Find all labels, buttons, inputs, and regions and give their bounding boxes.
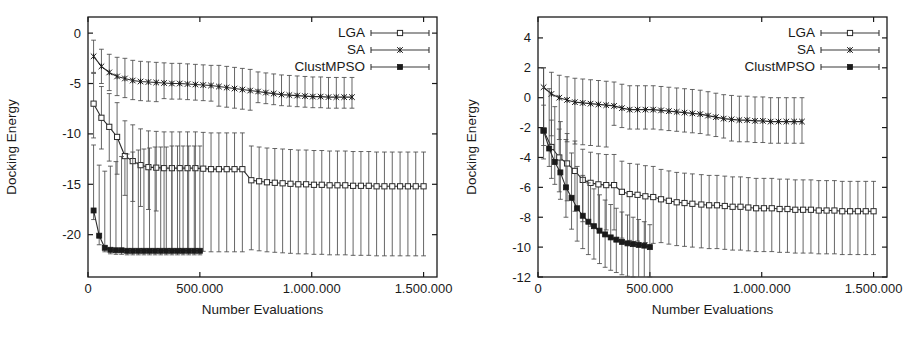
datapoint-lga-3: [114, 134, 119, 139]
datapoint-lga-41: [413, 184, 418, 189]
datapoint-lga-27: [753, 206, 758, 211]
datapoint-clustmpso-7: [130, 248, 135, 253]
x-tick-label-2: 1.000.000: [283, 281, 341, 296]
legend-label-sa: SA: [796, 42, 814, 57]
chart-svg-left: 0500.0001.000.0001.500.0000-5-10-15-20Nu…: [0, 0, 459, 343]
datapoint-lga-37: [382, 184, 387, 189]
datapoint-clustmpso-9: [591, 224, 596, 229]
datapoint-sa-1: [99, 64, 105, 70]
datapoint-lga-13: [642, 194, 647, 199]
datapoint-clustmpso-0: [91, 208, 96, 213]
datapoint-lga-0: [91, 101, 96, 106]
legend-label-lga: LGA: [787, 25, 814, 40]
datapoint-clustmpso-15: [175, 248, 180, 253]
datapoint-clustmpso-19: [197, 248, 202, 253]
datapoint-lga-30: [777, 206, 782, 211]
datapoint-lga-29: [769, 206, 774, 211]
datapoint-clustmpso-7: [580, 213, 585, 218]
datapoint-lga-17: [674, 200, 679, 205]
y-tick-label-4: -20: [62, 227, 81, 242]
datapoint-lga-3: [564, 161, 569, 166]
datapoint-lga-9: [611, 183, 616, 188]
datapoint-lga-20: [249, 178, 254, 183]
figure-container: 0500.0001.000.0001.500.0000-5-10-15-20Nu…: [0, 0, 919, 343]
datapoint-lga-8: [603, 183, 608, 188]
datapoint-lga-33: [351, 183, 356, 188]
datapoint-clustmpso-1: [97, 233, 102, 238]
datapoint-lga-37: [831, 208, 836, 213]
datapoint-sa-2: [106, 70, 112, 76]
markers-clustmpso: [91, 208, 202, 253]
chart-panel-left: 0500.0001.000.0001.500.0000-5-10-15-20Nu…: [0, 0, 460, 343]
y-tick-label-5: -6: [519, 180, 531, 195]
datapoint-clustmpso-16: [630, 242, 635, 247]
datapoint-lga-8: [154, 165, 159, 170]
y-tick-label-6: -8: [519, 210, 531, 225]
y-tick-label-2: 0: [523, 90, 530, 105]
datapoint-lga-19: [689, 201, 694, 206]
legend: LGASAClustMPSO: [744, 25, 879, 74]
datapoint-lga-25: [737, 204, 742, 209]
x-axis-title: Number Evaluations: [202, 302, 324, 317]
datapoint-lga-23: [272, 180, 277, 185]
x-tick-label-3: 1.500.000: [844, 281, 902, 296]
datapoint-clustmpso-legend-key: [847, 65, 852, 70]
datapoint-lga-22: [714, 203, 719, 208]
series-sa: [540, 68, 804, 147]
datapoint-lga-35: [816, 208, 821, 213]
datapoint-lga-23: [722, 203, 727, 208]
datapoint-clustmpso-18: [641, 243, 646, 248]
datapoint-lga-32: [792, 207, 797, 212]
datapoint-lga-33: [800, 207, 805, 212]
datapoint-lga-16: [216, 167, 221, 172]
datapoint-lga-14: [650, 194, 655, 199]
datapoint-lga-13: [193, 166, 198, 171]
datapoint-clustmpso-0: [541, 128, 546, 133]
datapoint-clustmpso-19: [647, 245, 652, 250]
datapoint-lga-36: [823, 208, 828, 213]
datapoint-clustmpso-10: [147, 248, 152, 253]
series-sa: [91, 40, 355, 110]
y-tick-label-1: -5: [69, 76, 81, 91]
datapoint-clustmpso-17: [636, 242, 641, 247]
datapoint-clustmpso-1: [546, 146, 551, 151]
datapoint-lga-22: [264, 180, 269, 185]
datapoint-clustmpso-2: [102, 245, 107, 250]
datapoint-lga-21: [706, 203, 711, 208]
datapoint-lga-legend-key: [847, 30, 852, 35]
legend-label-sa: SA: [347, 42, 365, 57]
datapoint-lga-18: [681, 200, 686, 205]
datapoint-lga-11: [627, 191, 632, 196]
datapoint-clustmpso-17: [186, 248, 191, 253]
datapoint-lga-16: [666, 198, 671, 203]
legend-label-clustmpso: ClustMPSO: [744, 59, 815, 74]
datapoint-lga-41: [863, 209, 868, 214]
datapoint-lga-34: [358, 183, 363, 188]
datapoint-lga-38: [390, 184, 395, 189]
datapoint-lga-32: [343, 183, 348, 188]
y-axis-title: Docking Energy: [4, 99, 19, 195]
datapoint-lga-1: [99, 115, 104, 120]
datapoint-lga-40: [405, 184, 410, 189]
y-axis-title: Docking Energy: [464, 99, 479, 195]
datapoint-clustmpso-15: [624, 241, 629, 246]
datapoint-lga-legend-key: [397, 30, 402, 35]
datapoint-clustmpso-18: [192, 248, 197, 253]
datapoint-lga-10: [619, 189, 624, 194]
y-tick-label-8: -12: [512, 270, 531, 285]
chart-svg-right: 0500.0001.000.0001.500.000420-2-4-6-8-10…: [460, 0, 919, 343]
datapoint-clustmpso-14: [619, 239, 624, 244]
y-tick-label-0: 4: [523, 30, 530, 45]
datapoint-lga-28: [761, 206, 766, 211]
datapoint-lga-42: [421, 184, 426, 189]
datapoint-lga-30: [327, 183, 332, 188]
datapoint-lga-7: [595, 182, 600, 187]
datapoint-lga-18: [232, 167, 237, 172]
datapoint-lga-31: [335, 183, 340, 188]
datapoint-clustmpso-16: [181, 248, 186, 253]
datapoint-lga-26: [296, 182, 301, 187]
datapoint-lga-24: [280, 181, 285, 186]
y-tick-label-3: -15: [62, 177, 81, 192]
x-tick-label-0: 0: [84, 281, 91, 296]
x-tick-label-3: 1.500.000: [395, 281, 453, 296]
